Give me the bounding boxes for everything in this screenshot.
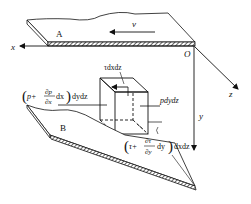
z-axis-arrow-icon (195, 47, 238, 89)
plate-b-label: B (60, 123, 66, 133)
svg-text:∂y: ∂y (145, 148, 152, 156)
top-plate-a (27, 12, 195, 46)
couette-flow-element-diagram: A v x O y z τdxdz pdydz ( p+ ∂p ∂x (0, 0, 251, 204)
svg-text:dy: dy (157, 142, 165, 151)
svg-text:∂τ: ∂τ (145, 137, 151, 145)
velocity-label: v (132, 19, 136, 29)
svg-text:τ+: τ+ (129, 142, 137, 151)
svg-text:dx: dx (56, 92, 64, 101)
svg-text:dydz: dydz (72, 92, 88, 101)
right-pressure-label: pdydz (159, 96, 180, 105)
svg-text:dxdz: dxdz (174, 142, 190, 151)
z-axis-label: z (228, 89, 233, 99)
top-shear-label: τdxdz (104, 63, 122, 72)
svg-text:): ) (168, 138, 173, 155)
svg-text:∂x: ∂x (45, 98, 52, 106)
svg-text:p+: p+ (26, 92, 36, 101)
svg-text:∂p: ∂p (45, 88, 52, 96)
y-axis-label: y (198, 111, 203, 121)
origin-label: O (184, 49, 191, 59)
plate-a-label: A (56, 29, 63, 39)
left-pressure-label: ( p+ ∂p ∂x dx ) dydz (22, 88, 88, 106)
svg-text:): ) (66, 88, 71, 105)
x-axis-label: x (10, 42, 15, 52)
